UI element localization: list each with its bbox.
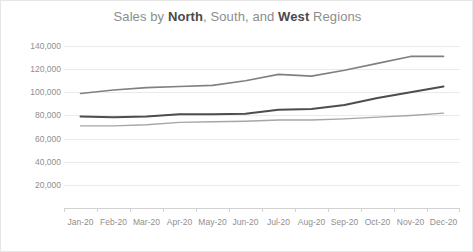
series-line-north <box>81 87 444 118</box>
y-axis-tick-label: 60,000 <box>5 134 61 144</box>
y-axis-tick-label: 20,000 <box>5 180 61 190</box>
x-axis-tick-label: Dec-20 <box>427 212 460 232</box>
y-axis-tick-label: 120,000 <box>5 64 61 74</box>
series-line-south <box>81 56 444 93</box>
chart-title-part-4: Regions <box>309 9 361 24</box>
x-axis-tick-label: Jan-20 <box>64 212 97 232</box>
x-axis-tick-label: Sep-20 <box>328 212 361 232</box>
chart-container: Sales by North, South, and West Regions … <box>0 0 473 252</box>
series-line-west <box>81 113 444 126</box>
x-axis-tick-label: Mar-20 <box>130 212 163 232</box>
x-axis-tick-label: Jun-20 <box>229 212 262 232</box>
x-axis-tick-label: Aug-20 <box>295 212 328 232</box>
x-axis-tick-label: Jul-20 <box>262 212 295 232</box>
y-axis-tick-label: 140,000 <box>5 41 61 51</box>
x-axis-tick-label: Apr-20 <box>163 212 196 232</box>
y-axis-tick-label: 40,000 <box>5 157 61 167</box>
series-lines <box>64 46 460 208</box>
x-axis-labels: Jan-20Feb-20Mar-20Apr-20May-20Jun-20Jul-… <box>64 212 460 232</box>
x-axis-tick-label: Nov-20 <box>394 212 427 232</box>
chart-title-part-2: , South, and <box>203 9 278 24</box>
x-axis-tick-label: Feb-20 <box>97 212 130 232</box>
x-axis-tick-label: May-20 <box>196 212 229 232</box>
plot-area <box>64 46 460 208</box>
chart-title: Sales by North, South, and West Regions <box>1 9 473 24</box>
chart-title-part-1: North <box>168 9 203 24</box>
x-axis-tick-label: Oct-20 <box>361 212 394 232</box>
chart-title-part-3: West <box>278 9 309 24</box>
y-axis-tick-label: 100,000 <box>5 87 61 97</box>
y-axis-labels: 20,00040,00060,00080,000100,000120,00014… <box>1 1 61 252</box>
y-axis-tick-label: 80,000 <box>5 110 61 120</box>
chart-title-part-0: Sales by <box>114 9 168 24</box>
